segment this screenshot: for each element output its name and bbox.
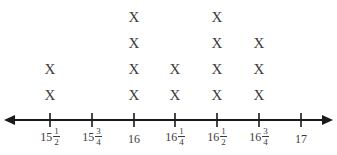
x-mark: X [209, 88, 225, 103]
x-mark: X [251, 62, 267, 77]
tick-label-whole: 16 [207, 130, 219, 144]
tick-label-whole: 16 [249, 130, 261, 144]
fraction-numerator: 1 [220, 127, 227, 137]
tick-label: 1612 [197, 127, 237, 147]
fraction-denominator: 4 [95, 138, 102, 147]
fraction-denominator: 4 [262, 138, 269, 147]
tick-label-whole: 16 [165, 130, 177, 144]
tick-label: 16 [114, 132, 154, 146]
tick-label-fraction: 34 [262, 127, 269, 147]
tick-label: 1512 [30, 127, 70, 147]
x-mark: X [126, 10, 142, 25]
x-mark: X [251, 36, 267, 51]
fraction-denominator: 2 [53, 138, 60, 147]
fraction-numerator: 3 [262, 127, 269, 137]
line-plot: XXXXXXXXXXXXXXX 151215341616141612163417 [0, 0, 337, 155]
x-mark: X [209, 62, 225, 77]
right-arrow-icon [322, 115, 333, 125]
tick-label-whole: 16 [128, 132, 140, 146]
x-mark: X [209, 36, 225, 51]
fraction-numerator: 3 [95, 127, 102, 137]
tick-label-whole: 17 [295, 132, 307, 146]
x-mark: X [126, 88, 142, 103]
tick-label: 1614 [155, 127, 195, 147]
tick-label: 1634 [239, 127, 279, 147]
fraction-denominator: 4 [178, 138, 185, 147]
tick-label-whole: 15 [82, 130, 94, 144]
x-mark: X [167, 62, 183, 77]
tick-label: 17 [281, 132, 321, 146]
x-mark: X [126, 36, 142, 51]
x-mark: X [126, 62, 142, 77]
tick-label-fraction: 12 [53, 127, 60, 147]
tick-label-whole: 15 [40, 130, 52, 144]
tick-label-fraction: 34 [95, 127, 102, 147]
tick-label: 1534 [72, 127, 112, 147]
left-arrow-icon [4, 115, 15, 125]
fraction-numerator: 1 [178, 127, 185, 137]
fraction-numerator: 1 [53, 127, 60, 137]
tick-label-fraction: 12 [220, 127, 227, 147]
x-mark: X [251, 88, 267, 103]
x-mark: X [42, 88, 58, 103]
fraction-denominator: 2 [220, 138, 227, 147]
tick-label-fraction: 14 [178, 127, 185, 147]
x-mark: X [42, 62, 58, 77]
x-mark: X [209, 10, 225, 25]
x-mark: X [167, 88, 183, 103]
